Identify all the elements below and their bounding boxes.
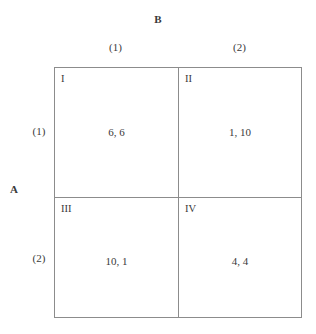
matrix-cell-ii: II 1, 10 xyxy=(178,68,301,197)
matrix-cell-iv: IV 4, 4 xyxy=(178,197,301,317)
matrix-cell-iii: III 10, 1 xyxy=(55,197,178,317)
payoff-matrix-figure: B A (1) (2) (1) (2) I 6, 6 II 1, 10 III … xyxy=(0,0,316,334)
row-strategy-2-label: (2) xyxy=(26,253,52,264)
cell-payoff-iii: 10, 1 xyxy=(55,256,178,267)
row-strategy-1-label: (1) xyxy=(26,126,52,137)
cell-payoff-ii: 1, 10 xyxy=(179,127,301,138)
cell-id-iv: IV xyxy=(185,204,196,215)
payoff-matrix-grid: I 6, 6 II 1, 10 III 10, 1 IV 4, 4 xyxy=(54,67,302,318)
row-player-label: A xyxy=(10,184,18,195)
cell-id-i: I xyxy=(61,74,65,85)
column-strategy-1-label: (1) xyxy=(54,42,177,53)
matrix-cell-i: I 6, 6 xyxy=(55,68,178,197)
cell-payoff-i: 6, 6 xyxy=(55,127,178,138)
cell-payoff-iv: 4, 4 xyxy=(179,256,301,267)
column-player-label: B xyxy=(0,14,316,25)
cell-id-iii: III xyxy=(61,204,72,215)
cell-id-ii: II xyxy=(185,74,192,85)
column-strategy-2-label: (2) xyxy=(177,42,302,53)
